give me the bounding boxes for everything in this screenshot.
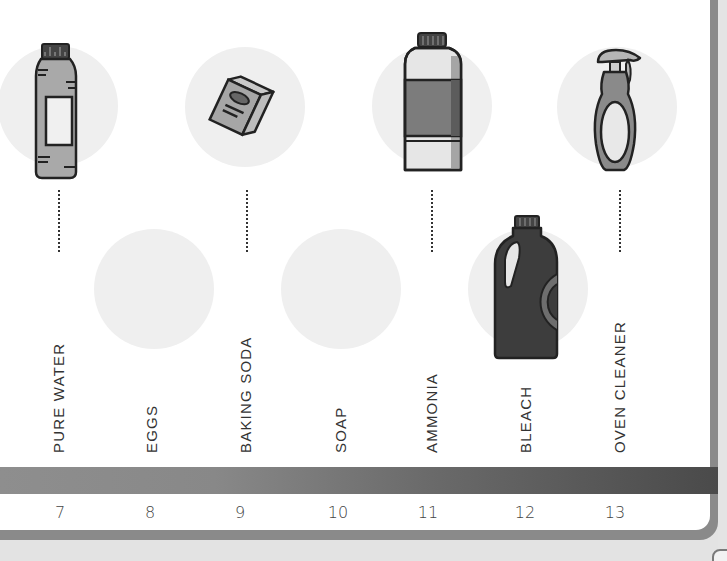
icon-circle [281, 229, 401, 349]
bleach-jug-icon [493, 214, 559, 360]
ph-value: 11 [408, 503, 448, 522]
ph-value: 10 [318, 503, 358, 522]
leader-line [58, 190, 60, 252]
substance-label: OVEN CLEANER [611, 321, 628, 453]
ph-value: 7 [40, 503, 80, 522]
ph-gradient-bar [0, 467, 718, 494]
substance-label: AMMONIA [423, 373, 440, 453]
ph-value: 8 [130, 503, 170, 522]
leader-line [246, 190, 248, 252]
substance-label: SOAP [332, 407, 349, 453]
substance-label: PURE WATER [50, 343, 67, 453]
substance-label: EGGS [143, 405, 160, 453]
ph-value: 9 [220, 503, 260, 522]
substance-label: BAKING SODA [237, 336, 254, 453]
spray-bottle-icon [590, 44, 650, 174]
ph-value: 12 [505, 503, 545, 522]
ph-value: 13 [595, 503, 635, 522]
icon-circle [94, 229, 214, 349]
next-card-corner [712, 549, 727, 561]
substance-label: BLEACH [517, 386, 534, 453]
ammonia-bottle-icon [403, 32, 463, 174]
leader-line [431, 190, 433, 252]
water-bottle-icon [36, 42, 80, 182]
side-panel [718, 0, 727, 561]
leader-line [619, 190, 621, 252]
baking-soda-box-icon [206, 74, 278, 140]
